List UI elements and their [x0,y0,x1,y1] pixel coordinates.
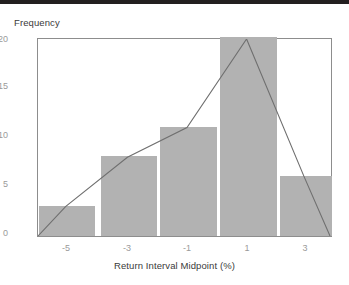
plot-area [37,38,332,237]
x-axis-title: Return Interval Midpoint (%) [0,260,349,271]
x-tick-label-neg3: -3 [112,243,142,253]
y-tick-label-20: 20 [0,34,8,44]
x-tick-label-pos3: 3 [290,243,320,253]
y-tick-label-5: 5 [3,179,8,189]
frequency-polygon-line [38,39,331,236]
y-tick-label-15: 15 [0,81,8,91]
x-tick-label-neg1: -1 [172,243,202,253]
y-axis-title: Frequency [14,17,60,28]
x-tick-label-neg5: -5 [51,243,81,253]
y-tick-label-0: 0 [3,228,8,238]
y-tick-label-10: 10 [0,130,8,140]
chart-figure: Frequency 20 15 10 5 0 -5 -3 -1 1 3 Retu… [0,4,349,285]
x-tick-label-pos1: 1 [232,243,262,253]
